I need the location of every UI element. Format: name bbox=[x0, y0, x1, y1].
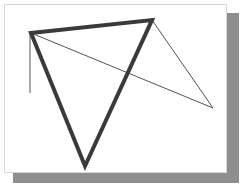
thin-triangle-shape bbox=[31, 20, 213, 108]
drawing-canvas bbox=[0, 0, 243, 189]
thick-triangle-shape bbox=[31, 20, 152, 166]
line-drawing bbox=[0, 0, 243, 189]
